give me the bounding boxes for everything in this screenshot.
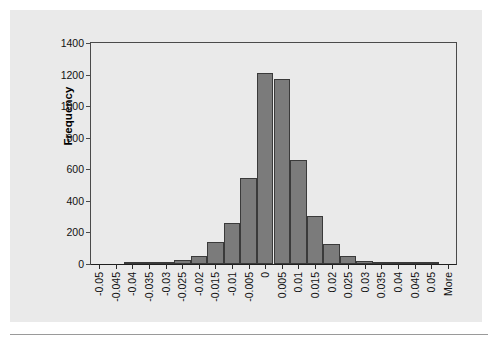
x-tick-mark <box>448 264 449 269</box>
x-tick-mark <box>166 264 167 269</box>
chart-panel: Frequency 0200400600800100012001400 -0.0… <box>10 10 482 322</box>
histogram-bar <box>340 256 357 264</box>
x-tick-mark <box>315 264 316 269</box>
x-tick-label: 0.05 <box>426 272 437 292</box>
x-tick-label: 0.035 <box>376 272 387 298</box>
y-tick-label: 600 <box>66 164 84 175</box>
x-tick-mark <box>149 264 150 269</box>
x-tick-mark <box>265 264 266 269</box>
x-tick-label: -0.03 <box>160 272 171 296</box>
x-tick-mark <box>398 264 399 269</box>
y-tick-mark <box>86 75 91 76</box>
x-tick-label: 0.01 <box>293 272 304 292</box>
y-tick-mark <box>86 43 91 44</box>
histogram-bar <box>207 242 224 264</box>
y-tick-mark <box>86 138 91 139</box>
x-tick-label: 0.02 <box>326 272 337 292</box>
x-tick-mark <box>215 264 216 269</box>
y-tick-label: 1200 <box>61 69 84 80</box>
y-tick-label: 1400 <box>61 38 84 49</box>
y-tick-label: 1000 <box>61 101 84 112</box>
x-tick-label: 0 <box>260 272 271 278</box>
histogram-bar <box>406 262 423 264</box>
screenshot-root: Frequency 0200400600800100012001400 -0.0… <box>0 0 497 352</box>
histogram-bar <box>174 260 191 264</box>
x-tick-label: 0.03 <box>360 272 371 292</box>
x-tick-label: -0.04 <box>127 272 138 296</box>
x-tick-label: -0.025 <box>177 272 188 302</box>
histogram-bar <box>274 79 291 264</box>
x-tick-label: 0.025 <box>343 272 354 298</box>
x-tick-mark <box>232 264 233 269</box>
x-tick-label: -0.05 <box>94 272 105 296</box>
x-tick-label: More <box>442 272 453 296</box>
y-tick-label: 400 <box>66 196 84 207</box>
histogram-bar <box>323 244 340 264</box>
x-tick-label: -0.015 <box>210 272 221 302</box>
x-tick-label: 0.015 <box>310 272 321 298</box>
histogram-bar <box>191 256 208 264</box>
y-tick-mark <box>86 201 91 202</box>
x-tick-mark <box>298 264 299 269</box>
x-tick-label: 0.005 <box>277 272 288 298</box>
y-tick-mark <box>86 264 91 265</box>
x-tick-mark <box>415 264 416 269</box>
x-tick-label: 0.04 <box>393 272 404 292</box>
x-tick-label: -0.035 <box>144 272 155 302</box>
histogram-bar <box>423 262 440 264</box>
x-tick-label: -0.005 <box>243 272 254 302</box>
x-tick-label: -0.01 <box>227 272 238 296</box>
x-tick-label: -0.045 <box>111 272 122 302</box>
histogram-bar <box>290 160 307 264</box>
histogram-bar <box>356 261 373 264</box>
x-tick-label: 0.045 <box>409 272 420 298</box>
histogram-bar <box>157 262 174 264</box>
bottom-divider <box>10 334 488 335</box>
x-tick-mark <box>116 264 117 269</box>
histogram-bar <box>257 73 274 264</box>
x-tick-mark <box>365 264 366 269</box>
histogram-bar <box>390 262 407 264</box>
y-tick-mark <box>86 106 91 107</box>
x-tick-mark <box>199 264 200 269</box>
histogram-bar <box>240 178 257 264</box>
x-tick-mark <box>99 264 100 269</box>
x-tick-mark <box>282 264 283 269</box>
histogram-bar <box>224 223 241 264</box>
y-tick-label: 200 <box>66 227 84 238</box>
y-tick-mark <box>86 169 91 170</box>
plot-area: 0200400600800100012001400 -0.05-0.045-0.… <box>90 42 457 265</box>
x-tick-mark <box>332 264 333 269</box>
x-tick-label: -0.02 <box>194 272 205 296</box>
y-tick-label: 0 <box>78 259 84 270</box>
histogram-bar <box>373 262 390 264</box>
x-tick-mark <box>249 264 250 269</box>
x-tick-mark <box>431 264 432 269</box>
y-tick-mark <box>86 232 91 233</box>
y-tick-label: 800 <box>66 132 84 143</box>
x-tick-mark <box>348 264 349 269</box>
x-tick-mark <box>381 264 382 269</box>
histogram-bar <box>141 262 158 264</box>
histogram-bar <box>307 216 324 264</box>
x-tick-mark <box>132 264 133 269</box>
x-tick-mark <box>182 264 183 269</box>
histogram-bar <box>124 262 141 264</box>
